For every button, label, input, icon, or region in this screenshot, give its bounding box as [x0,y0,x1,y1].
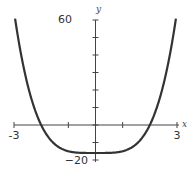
y-min-label: −20 [65,154,88,167]
x-min-label: -3 [9,129,20,142]
axes [14,20,179,162]
y-axis-label: y [95,4,102,14]
chart: 60 −20 -3 3 x y [0,0,193,170]
y-max-label: 60 [58,13,72,26]
x-axis-label: x [182,119,187,129]
x-max-label: 3 [174,129,181,142]
